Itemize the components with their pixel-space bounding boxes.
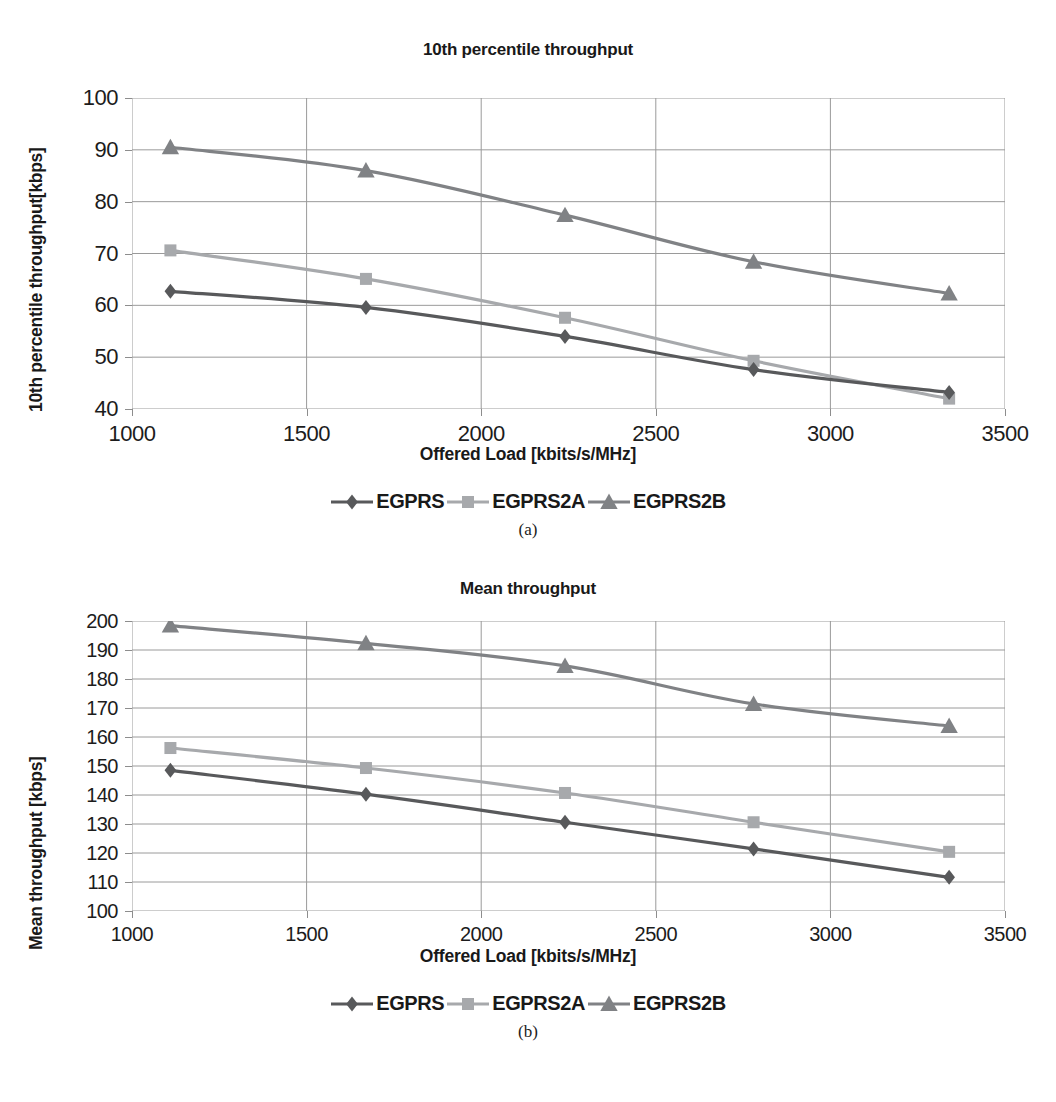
- y-tick-mark: [125, 409, 132, 410]
- series-line-EGPRS2A: [170, 748, 949, 852]
- series-line-EGPRS2B: [170, 626, 949, 726]
- x-tick-label: 3000: [809, 923, 852, 946]
- triangle-marker: [586, 994, 632, 1014]
- legend-item-EGPRS2B[interactable]: EGPRS2B: [586, 992, 727, 1015]
- chart-canvas: [132, 98, 1005, 409]
- square-marker: [462, 998, 474, 1010]
- y-tick-label: 90: [56, 137, 118, 163]
- x-tick-mark: [1005, 911, 1006, 918]
- y-tick-label: 70: [56, 241, 118, 267]
- legend-label: EGPRS: [376, 490, 444, 513]
- legend-item-EGPRS2B[interactable]: EGPRS2B: [586, 490, 727, 513]
- y-tick-label: 190: [56, 639, 118, 662]
- y-tick-mark: [125, 708, 132, 709]
- x-tick-label: 2500: [635, 923, 678, 946]
- y-tick-mark: [125, 853, 132, 854]
- y-tick-label: 120: [56, 842, 118, 865]
- diamond-marker: [165, 763, 177, 778]
- y-tick-label: 180: [56, 668, 118, 691]
- square-marker: [943, 846, 955, 858]
- subcaption-a: (a): [0, 520, 1056, 540]
- y-tick-mark: [125, 621, 132, 622]
- x-tick-mark: [307, 409, 308, 416]
- square-marker: [462, 496, 474, 508]
- diamond-marker: [360, 787, 372, 802]
- legend-item-EGPRS2A[interactable]: EGPRS2A: [445, 992, 586, 1015]
- x-tick-mark: [830, 409, 831, 416]
- square-marker: [360, 762, 372, 774]
- x-tick-mark: [481, 911, 482, 918]
- square-marker: [164, 244, 176, 256]
- diamond-marker: [346, 494, 358, 509]
- y-tick-label: 140: [56, 784, 118, 807]
- triangle-marker: [586, 492, 632, 512]
- plot-area-b: [132, 621, 1005, 911]
- legend-label: EGPRS2A: [492, 992, 585, 1015]
- y-tick-mark: [125, 882, 132, 883]
- x-axis-label-a: Offered Load [kbits/s/MHz]: [0, 444, 1056, 465]
- diamond-marker: [165, 284, 177, 299]
- y-tick-mark: [125, 679, 132, 680]
- y-tick-label: 50: [56, 344, 118, 370]
- y-tick-mark: [125, 737, 132, 738]
- x-tick-mark: [307, 911, 308, 918]
- y-tick-label: 100: [56, 85, 118, 111]
- figure-two-charts: 10th percentile throughput 10th percenti…: [0, 0, 1056, 1102]
- x-tick-mark: [481, 409, 482, 416]
- y-tick-label: 60: [56, 292, 118, 318]
- y-tick-mark: [125, 357, 132, 358]
- diamond-marker: [346, 996, 358, 1011]
- legend-item-EGPRS[interactable]: EGPRS: [329, 490, 445, 513]
- diamond-marker: [748, 841, 760, 856]
- legend-label: EGPRS2A: [492, 490, 585, 513]
- square-marker: [360, 273, 372, 285]
- diamond-marker: [329, 492, 375, 512]
- square-marker: [164, 742, 176, 754]
- y-tick-label: 200: [56, 610, 118, 633]
- square-marker: [559, 787, 571, 799]
- y-tick-mark: [125, 202, 132, 203]
- legend-a: EGPRSEGPRS2AEGPRS2B: [0, 490, 1056, 513]
- legend-item-EGPRS[interactable]: EGPRS: [329, 992, 445, 1015]
- plot-area-a: [132, 98, 1005, 409]
- y-axis-label-a: 10th percentile throughput[kbps]: [26, 147, 47, 412]
- legend-label: EGPRS: [376, 992, 444, 1015]
- y-tick-label: 80: [56, 189, 118, 215]
- chart-title-b: Mean throughput: [0, 579, 1056, 599]
- chart-panel-a: 10th percentile throughput 10th percenti…: [0, 0, 1056, 560]
- y-tick-mark: [125, 766, 132, 767]
- x-tick-label: 3500: [984, 923, 1027, 946]
- chart-title-a: 10th percentile throughput: [0, 40, 1056, 60]
- y-tick-mark: [125, 98, 132, 99]
- square-marker: [445, 492, 491, 512]
- legend-item-EGPRS2A[interactable]: EGPRS2A: [445, 490, 586, 513]
- diamond-marker: [559, 815, 571, 830]
- diamond-marker: [329, 994, 375, 1014]
- y-tick-mark: [125, 824, 132, 825]
- y-tick-label: 100: [56, 900, 118, 923]
- y-tick-mark: [125, 150, 132, 151]
- y-tick-label: 160: [56, 726, 118, 749]
- x-tick-mark: [132, 911, 133, 918]
- legend-label: EGPRS2B: [633, 490, 726, 513]
- diamond-marker: [559, 329, 571, 344]
- x-axis-label-b: Offered Load [kbits/s/MHz]: [0, 946, 1056, 967]
- x-tick-mark: [656, 911, 657, 918]
- y-tick-mark: [125, 650, 132, 651]
- diamond-marker: [360, 300, 372, 315]
- y-tick-label: 130: [56, 813, 118, 836]
- y-tick-mark: [125, 254, 132, 255]
- y-tick-mark: [125, 795, 132, 796]
- y-axis-label-b: Mean throughput [kbps]: [26, 756, 47, 950]
- square-marker: [748, 816, 760, 828]
- square-marker: [559, 312, 571, 324]
- x-tick-mark: [656, 409, 657, 416]
- y-tick-mark: [125, 305, 132, 306]
- x-tick-mark: [830, 911, 831, 918]
- chart-panel-b: Mean throughput Mean throughput [kbps] 1…: [0, 560, 1056, 1102]
- subcaption-b: (b): [0, 1022, 1056, 1042]
- square-marker: [445, 994, 491, 1014]
- chart-canvas: [132, 621, 1005, 911]
- y-tick-label: 110: [56, 871, 118, 894]
- y-tick-mark: [125, 911, 132, 912]
